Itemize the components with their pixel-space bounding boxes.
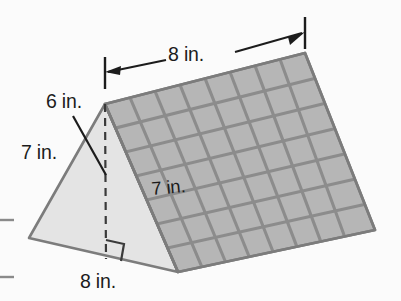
label-base-width: 8 in. bbox=[80, 270, 116, 292]
crop-marks-group bbox=[0, 220, 14, 277]
prism-diagram-canvas: 8 in. 6 in. 7 in. 7 in. 8 in. bbox=[0, 0, 401, 301]
label-triangle-height: 6 in. bbox=[46, 90, 82, 112]
prism-figure: 8 in. 6 in. 7 in. 7 in. 8 in. bbox=[0, 0, 401, 301]
dimension-arrowhead-left bbox=[105, 66, 121, 75]
label-top-length: 8 in. bbox=[168, 43, 204, 65]
label-prism-depth: 7 in. bbox=[151, 175, 187, 199]
prism-solid bbox=[29, 53, 375, 272]
label-triangle-slant: 7 in. bbox=[21, 141, 57, 163]
